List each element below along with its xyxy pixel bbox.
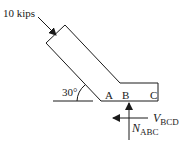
shear-force-label: VBCD bbox=[153, 111, 179, 127]
load-label: 10 kips bbox=[3, 7, 35, 19]
point-b-label: B bbox=[122, 89, 129, 101]
free-body-diagram: 10 kips 30° A B C VBCD NABC bbox=[0, 0, 188, 145]
load-arrow-icon bbox=[38, 17, 56, 35]
normal-subscript: ABC bbox=[140, 127, 159, 137]
shear-subscript: BCD bbox=[160, 117, 179, 127]
angle-label: 30° bbox=[62, 86, 77, 98]
point-a-label: A bbox=[105, 89, 113, 101]
point-c-label: C bbox=[150, 89, 157, 101]
angle-arc bbox=[77, 85, 85, 101]
